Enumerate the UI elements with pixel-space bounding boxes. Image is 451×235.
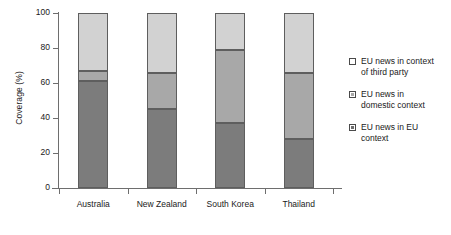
y-tick-label: 60	[22, 78, 50, 87]
bar-segment[interactable]	[215, 123, 245, 188]
legend-swatch-icon	[349, 124, 356, 131]
bar-segment[interactable]	[78, 13, 108, 71]
x-tick-mark	[333, 189, 334, 194]
y-tick-label: 100	[22, 8, 50, 17]
stacked-bar-chart: Coverage (%) 020406080100 AustraliaNew Z…	[0, 0, 451, 235]
y-tick-label: 20	[22, 148, 50, 157]
x-tick-label: Thailand	[265, 199, 334, 209]
bar-segment[interactable]	[147, 73, 177, 110]
x-tick-mark	[59, 189, 60, 194]
bar-segment[interactable]	[78, 81, 108, 188]
legend-item[interactable]: EU news in contextof third party	[349, 56, 449, 78]
legend-item[interactable]: EU news in EUcontext	[349, 122, 449, 144]
plot-area	[59, 13, 333, 188]
y-tick-label: 80	[22, 43, 50, 52]
legend-label: EU news indomestic context	[361, 89, 449, 111]
y-tick-label: 0	[22, 183, 50, 192]
x-tick-mark	[196, 189, 197, 194]
bar-segment[interactable]	[147, 109, 177, 188]
y-axis-title: Coverage (%)	[14, 53, 24, 143]
bar-australia[interactable]	[78, 13, 108, 188]
bar-south-korea[interactable]	[215, 13, 245, 188]
x-tick-label: Australia	[59, 199, 128, 209]
y-tick-label: 40	[22, 113, 50, 122]
bar-segment[interactable]	[147, 13, 177, 73]
legend-label: EU news in EUcontext	[361, 122, 449, 144]
bar-segment[interactable]	[215, 50, 245, 124]
x-tick-mark	[128, 189, 129, 194]
bar-thailand[interactable]	[284, 13, 314, 188]
x-axis-line	[52, 188, 342, 189]
bar-segment[interactable]	[284, 139, 314, 188]
x-tick-label: South Korea	[196, 199, 265, 209]
bar-new-zealand[interactable]	[147, 13, 177, 188]
bar-segment[interactable]	[78, 71, 108, 82]
x-tick-mark	[265, 189, 266, 194]
x-tick-label: New Zealand	[128, 199, 197, 209]
legend-swatch-icon	[349, 58, 356, 65]
bar-segment[interactable]	[284, 73, 314, 140]
legend-item[interactable]: EU news indomestic context	[349, 89, 449, 111]
bar-segment[interactable]	[284, 13, 314, 73]
legend-swatch-icon	[349, 91, 356, 98]
chart-legend: EU news in contextof third partyEU news …	[349, 56, 449, 155]
legend-label: EU news in contextof third party	[361, 56, 449, 78]
bar-segment[interactable]	[215, 13, 245, 50]
